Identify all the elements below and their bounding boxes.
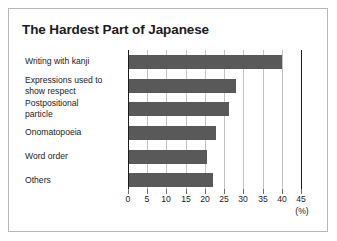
category-label: Word order xyxy=(25,151,123,162)
bar xyxy=(128,126,216,140)
chart-title: The Hardest Part of Japanese xyxy=(22,22,209,37)
tick-label-15: 15 xyxy=(181,194,191,204)
category-label: Onomatopoeia xyxy=(25,127,123,138)
bar xyxy=(128,150,207,164)
tick-label-5: 5 xyxy=(145,194,150,204)
gridline-5 xyxy=(147,50,148,192)
tick-label-40: 40 xyxy=(277,194,287,204)
gridline-30 xyxy=(243,50,244,192)
bar xyxy=(128,102,229,116)
gridline-25 xyxy=(224,50,225,192)
bar-row xyxy=(128,126,216,140)
axis-right-rule xyxy=(301,50,302,192)
category-label: Writing with kanji xyxy=(25,56,123,67)
tick-label-10: 10 xyxy=(161,194,171,204)
tick-label-35: 35 xyxy=(258,194,268,204)
category-label: Postpositional particle xyxy=(25,98,123,120)
tick-label-25: 25 xyxy=(219,194,229,204)
gridline-15 xyxy=(186,50,187,192)
bar-row xyxy=(128,55,282,69)
tick-label-45: 45 xyxy=(296,194,306,204)
bar xyxy=(128,55,282,69)
bar-row xyxy=(128,150,207,164)
bar xyxy=(128,173,213,187)
bar xyxy=(128,79,236,93)
unit-label: (%) xyxy=(295,206,308,216)
tick-label-30: 30 xyxy=(238,194,248,204)
gridline-35 xyxy=(263,50,264,192)
bar-row xyxy=(128,102,229,116)
gridline-20 xyxy=(205,50,206,192)
gridline-40 xyxy=(282,50,283,192)
gridline-10 xyxy=(166,50,167,192)
chart-figure: The Hardest Part of Japanese Writing wit… xyxy=(0,0,337,241)
value-axis-line xyxy=(128,50,129,192)
plot-area xyxy=(128,50,302,192)
value-axis-tick-labels: 051015202530354045 xyxy=(128,194,308,206)
bar-row xyxy=(128,173,213,187)
category-label: Expressions used to show respect xyxy=(25,75,123,97)
bar-row xyxy=(128,79,236,93)
category-label: Others xyxy=(25,175,123,186)
category-axis-labels: Writing with kanjiExpressions used to sh… xyxy=(25,50,123,192)
tick-label-0: 0 xyxy=(126,194,131,204)
tick-label-20: 20 xyxy=(200,194,210,204)
